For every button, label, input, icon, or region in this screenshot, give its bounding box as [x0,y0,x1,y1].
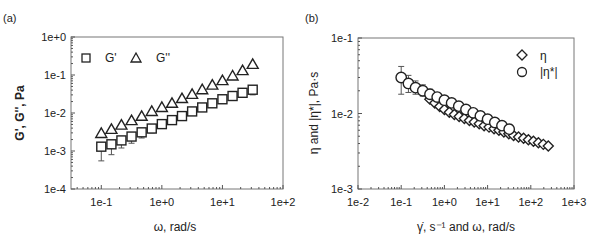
triangle-marker [146,106,157,116]
triangle-marker [156,102,167,112]
square-marker [117,136,126,145]
x-tick-label: 1e+3 [562,196,587,208]
legend-label-eta-star: |η*| [540,65,558,79]
triangle-marker [247,59,258,69]
legend-a: G' G'' [82,51,170,65]
square-marker [147,124,156,133]
x-tick-label: 1e-1 [90,196,112,208]
square-marker [157,120,166,129]
y-tick-label: 1e-4 [44,183,66,195]
y-tick-label: 1e-1 [44,69,66,81]
panel-a-label: (a) [3,12,16,24]
legend-b: η |η*| [517,49,558,79]
square-marker [127,132,136,141]
square-marker [198,103,207,112]
legend-label-g-prime: G' [105,51,117,65]
legend-label-g-double-prime: G'' [156,51,170,65]
y-axis-label-a: G', G'', Pa [13,85,27,141]
x-tick-label: 1e-1 [390,196,412,208]
square-marker [188,107,197,116]
triangle-marker [187,89,198,99]
square-marker [248,85,257,94]
square-marker [97,142,106,151]
chart-panel-b: (b) 1e-21e-11e+01e+11e+21e+31e-31e-21e-1… [305,12,586,234]
triangle-marker [237,65,248,75]
x-tick-label: 1e+2 [518,196,543,208]
triangle-marker [197,84,208,94]
triangle-marker [106,124,117,134]
figure: (a) 1e-11e+01e+11e+21e-41e-31e-21e-11e+0… [0,0,600,248]
chart-panel-a: (a) 1e-11e+01e+11e+21e-41e-31e-21e-11e+0… [3,12,295,234]
panel-b-label: (b) [305,12,318,24]
y-axis-label-b: η and |η*|, Pa·s [307,72,321,154]
y-tick-label: 1e-2 [44,107,66,119]
x-axis-label-a: ω, rad/s [154,220,197,234]
triangle-marker [217,75,228,85]
x-tick-label: 1e+2 [271,196,296,208]
data-series-a [96,59,258,161]
square-marker [177,112,186,121]
x-tick-label: 1e+0 [432,196,457,208]
y-tick-label: 1e-3 [331,183,353,195]
triangle-marker [207,80,218,90]
x-tick-label: 1e+0 [149,196,174,208]
y-tick-label: 1e-2 [331,108,353,120]
x-tick-label: 1e+1 [210,196,235,208]
x-tick-label: 1e-2 [347,196,369,208]
triangle-marker [116,120,127,130]
triangle-marker [126,115,137,125]
data-series-b [396,66,553,151]
triangle-marker [96,128,107,138]
square-marker [228,92,237,101]
square-marker [107,140,116,149]
y-tick-label: 1e-3 [44,145,66,157]
square-marker [167,116,176,125]
triangle-marker [176,93,187,103]
legend-triangle-icon [131,53,141,62]
legend-diamond-icon [517,50,527,60]
circle-marker [504,124,514,134]
y-tick-label: 1e-1 [331,32,353,44]
x-tick-label: 1e+1 [475,196,500,208]
legend-circle-icon [518,68,527,77]
legend-square-icon [82,54,90,62]
square-marker [208,99,217,108]
y-tick-label: 1e+0 [41,31,66,43]
square-marker [218,95,227,104]
square-marker [238,88,247,97]
square-marker [137,128,146,137]
legend-label-eta: η [540,49,547,63]
x-axis-label-b: γ̇, s⁻¹ and ω, rad/s [417,220,515,234]
